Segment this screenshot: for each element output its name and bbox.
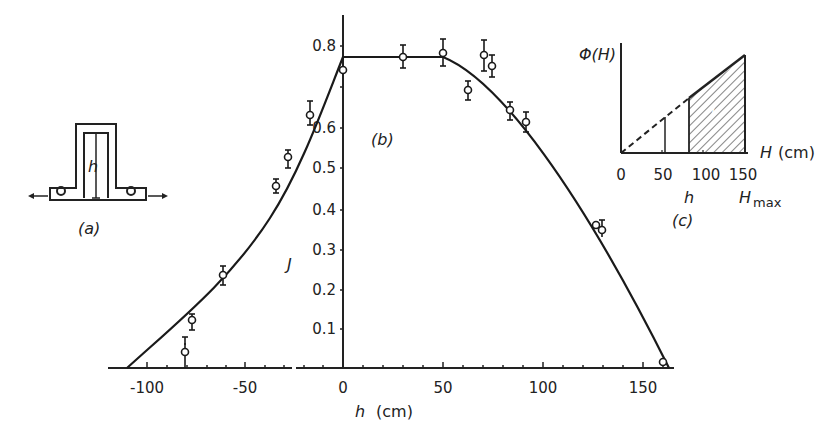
inset-y-label: Φ(H) <box>579 45 616 64</box>
x-tick-label: 0 <box>338 379 348 397</box>
inset-x-label-var: H <box>760 143 772 162</box>
main-plot-axes <box>108 15 674 368</box>
x-axis-title-var: h <box>355 402 365 421</box>
x-axis-title-unit: (cm) <box>376 402 413 421</box>
x-tick-label: 150 <box>629 379 658 397</box>
figure-canvas: h (a) -100 -50 0 50 100 150 0.1 0.2 0.3 <box>0 0 840 446</box>
inset-hmax-subscript: max <box>753 195 782 210</box>
y-tick-label: 0.8 <box>312 37 336 55</box>
data-points <box>182 39 667 368</box>
inset-x-label-unit: (cm) <box>778 143 815 162</box>
y-tick-label: 0.2 <box>312 281 336 299</box>
theory-curve <box>127 57 669 368</box>
y-tick-label: 0.3 <box>312 241 336 259</box>
inset-x-tick-label: 100 <box>692 166 721 184</box>
inset-x-tick-label: 0 <box>616 166 626 184</box>
panel-a-h-label: h <box>88 157 98 176</box>
inset-h-marker: h <box>684 188 694 207</box>
inset-c <box>621 43 748 153</box>
x-tick-label: 100 <box>529 379 558 397</box>
inset-x-tick-label: 150 <box>729 166 758 184</box>
y-axis-title: J <box>284 255 292 274</box>
x-tick-label: -50 <box>233 379 258 397</box>
panel-c-label: (c) <box>672 211 693 230</box>
panel-a-label: (a) <box>78 219 100 238</box>
x-tick-label: 50 <box>433 379 452 397</box>
inset-x-tick-label: 50 <box>653 166 672 184</box>
x-tick-label: -100 <box>130 379 164 397</box>
y-tick-label: 0.4 <box>312 201 336 219</box>
panel-b-label: (b) <box>371 130 394 149</box>
y-tick-label: 0.1 <box>312 320 336 338</box>
y-tick-label: 0.5 <box>312 159 336 177</box>
inset-hmax-marker: H <box>739 188 751 207</box>
